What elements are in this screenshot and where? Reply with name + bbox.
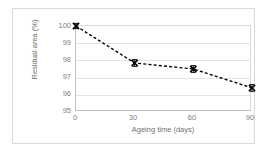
y-tick-label: 99	[47, 39, 71, 47]
data-series-plot	[76, 26, 252, 112]
plot-area	[75, 25, 251, 111]
x-axis-tick-labels: 0 30 60 90	[75, 113, 251, 125]
series-line	[76, 26, 252, 88]
y-tick-label: 98	[47, 56, 71, 64]
y-tick-label: 96	[47, 90, 71, 98]
x-tick-label: 60	[177, 113, 207, 122]
y-tick-label: 97	[47, 73, 71, 81]
x-tick-label: 0	[60, 113, 90, 122]
y-axis-tick-labels: 100 99 98 97 96 95	[47, 9, 71, 129]
x-tick-label: 90	[235, 113, 265, 122]
y-axis-label: Residual area (%)	[30, 2, 39, 98]
chart-frame: Residual area (%) 100 99 98 97 96 95 0 3…	[12, 8, 255, 144]
x-tick-label: 30	[118, 113, 148, 122]
y-tick-label: 100	[47, 22, 71, 30]
chart-figure: Residual area (%) 100 99 98 97 96 95 0 3…	[0, 0, 268, 154]
x-axis-label: Ageing time (days)	[75, 125, 251, 134]
